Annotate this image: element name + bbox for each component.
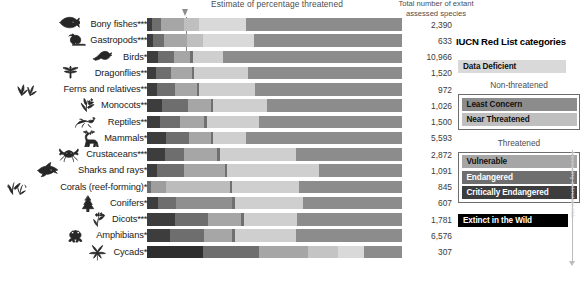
bar-segment-critically-endangered bbox=[147, 246, 203, 259]
legend-chip-data-deficient[interactable]: Data Deficient bbox=[458, 60, 566, 73]
row-label: Gastropods*** bbox=[7, 35, 147, 45]
bar-segment-endangered bbox=[158, 51, 173, 64]
bar-segment-data-deficient bbox=[227, 164, 319, 177]
stacked-bar[interactable] bbox=[147, 148, 402, 161]
legend-chip-vulnerable[interactable]: Vulnerable bbox=[462, 155, 577, 168]
bar-segment-data-deficient bbox=[220, 148, 297, 161]
bar-segment-endangered bbox=[160, 116, 180, 129]
row-label: Cycads* bbox=[7, 247, 147, 257]
bar-segment-critically-endangered bbox=[147, 197, 158, 210]
legend-panel: IUCN Red List categories Data Deficient … bbox=[458, 36, 580, 227]
stacked-bar[interactable] bbox=[147, 67, 402, 80]
bar-segment-data-deficient bbox=[244, 213, 298, 226]
legend-data-deficient-row: Data Deficient bbox=[458, 60, 566, 73]
bar-segment-critically-endangered bbox=[147, 99, 162, 112]
bar-segment-vulnerable bbox=[166, 181, 230, 194]
row-label: Dragonflies** bbox=[7, 68, 147, 78]
legend-chip-least-concern[interactable]: Least Concern bbox=[462, 98, 577, 111]
bar-segment-least-concern bbox=[299, 181, 402, 194]
bar-segment-vulnerable bbox=[180, 116, 204, 129]
stacked-bar[interactable] bbox=[147, 213, 402, 226]
bar-segment-vulnerable bbox=[188, 99, 211, 112]
bar-segment-data-deficient bbox=[338, 246, 364, 259]
stacked-bar[interactable] bbox=[147, 181, 402, 194]
row-label: Sharks and rays* bbox=[7, 165, 147, 175]
legend-group-threatened: Threatened bbox=[458, 138, 580, 148]
bar-segment-least-concern bbox=[254, 34, 402, 47]
species-count: 6,576 bbox=[404, 231, 452, 241]
bar-segment-least-concern bbox=[303, 197, 402, 210]
stacked-bar[interactable] bbox=[147, 197, 402, 210]
bar-segment-endangered bbox=[157, 164, 184, 177]
bar-segment-least-concern bbox=[223, 51, 402, 64]
bar-segment-least-concern bbox=[267, 99, 402, 112]
bar-segment-endangered bbox=[165, 148, 184, 161]
bar-segment-endangered bbox=[153, 34, 163, 47]
bar-segment-near-threatened bbox=[184, 18, 199, 31]
stacked-bar[interactable] bbox=[147, 83, 402, 96]
bar-segment-least-concern bbox=[246, 18, 402, 31]
bar-segment-data-deficient bbox=[213, 132, 246, 145]
row-label: Corals (reef-forming)* bbox=[7, 182, 147, 192]
bar-segment-critically-endangered bbox=[147, 67, 156, 80]
row-label: Mammals* bbox=[7, 133, 147, 143]
chart-row: Cycads*307 bbox=[0, 245, 584, 261]
legend-box-threatened: Vulnerable Endangered Critically Endange… bbox=[458, 152, 580, 203]
species-count: 307 bbox=[404, 247, 452, 257]
species-count: 1,781 bbox=[404, 215, 452, 225]
stacked-bar[interactable] bbox=[147, 51, 402, 64]
bar-segment-data-deficient bbox=[207, 116, 259, 129]
legend-box-non-threatened: Least Concern Near Threatened bbox=[458, 94, 580, 130]
bar-segment-least-concern bbox=[319, 164, 402, 177]
stacked-bar[interactable] bbox=[147, 18, 402, 31]
bar-segment-endangered bbox=[203, 246, 259, 259]
species-count: 845 bbox=[404, 182, 452, 192]
bar-segment-vulnerable bbox=[184, 164, 225, 177]
chart-row: Amphibians*6,576 bbox=[0, 228, 584, 244]
extinction-risk-arrow-label: Increasing extinction risk bbox=[566, 152, 576, 256]
bar-segment-critically-endangered bbox=[147, 116, 160, 129]
stacked-bar[interactable] bbox=[147, 34, 402, 47]
bar-segment-critically-endangered bbox=[147, 213, 175, 226]
legend-chip-endangered[interactable]: Endangered bbox=[462, 171, 577, 184]
row-label: Reptiles** bbox=[7, 117, 147, 127]
bar-segment-least-concern bbox=[248, 67, 402, 80]
bar-segment-critically-endangered bbox=[147, 83, 157, 96]
bar-segment-least-concern bbox=[259, 116, 402, 129]
stacked-bar[interactable] bbox=[147, 246, 402, 259]
bar-segment-endangered bbox=[157, 83, 175, 96]
row-label: Bony fishes*** bbox=[7, 19, 147, 29]
bar-segment-vulnerable bbox=[204, 229, 232, 242]
bar-segment-vulnerable bbox=[171, 67, 191, 80]
bar-segment-data-deficient bbox=[235, 197, 303, 210]
species-count: 607 bbox=[404, 198, 452, 208]
bar-segment-vulnerable bbox=[208, 213, 241, 226]
bar-segment-endangered bbox=[152, 18, 161, 31]
bar-segment-vulnerable bbox=[184, 148, 217, 161]
bar-segment-least-concern bbox=[296, 148, 402, 161]
legend-chip-near-threatened[interactable]: Near Threatened bbox=[462, 113, 577, 126]
stacked-bar[interactable] bbox=[147, 229, 402, 242]
bar-segment-endangered bbox=[156, 67, 171, 80]
stacked-bar[interactable] bbox=[147, 116, 402, 129]
estimate-pointer-icon bbox=[182, 9, 188, 16]
bar-segment-critically-endangered bbox=[147, 148, 165, 161]
stacked-bar[interactable] bbox=[147, 164, 402, 177]
stacked-bar[interactable] bbox=[147, 132, 402, 145]
legend-chip-extinct-in-the-wild[interactable]: Extinct in the Wild bbox=[458, 214, 568, 227]
bar-segment-vulnerable bbox=[189, 132, 211, 145]
stacked-bar[interactable] bbox=[147, 99, 402, 112]
bar-segment-critically-endangered bbox=[147, 164, 157, 177]
row-label: Ferns and relatives** bbox=[7, 84, 147, 94]
row-label: Amphibians* bbox=[7, 230, 147, 240]
bar-segment-endangered bbox=[151, 181, 166, 194]
bar-segment-data-deficient bbox=[232, 181, 298, 194]
row-label: Crustaceans*** bbox=[7, 149, 147, 159]
row-label: Dicots*** bbox=[7, 214, 147, 224]
row-label: Monocots** bbox=[7, 100, 147, 110]
legend-chip-critically-endangered[interactable]: Critically Endangered bbox=[462, 186, 577, 199]
bar-segment-data-deficient bbox=[199, 83, 255, 96]
bar-segment-vulnerable bbox=[175, 83, 197, 96]
species-count: 1,520 bbox=[404, 68, 452, 78]
row-label: Conifers* bbox=[7, 198, 147, 208]
